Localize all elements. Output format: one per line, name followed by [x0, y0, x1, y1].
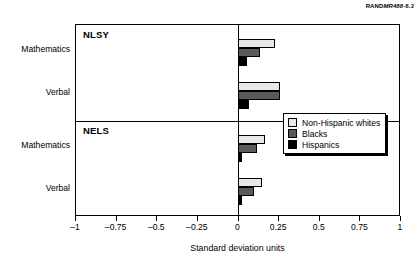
legend-label-non-hispanic-whites: Non-Hispanic whites: [302, 118, 380, 128]
y-label-nlsy-verbal: Verbal: [46, 87, 70, 97]
bar-nlsy-mathematics-blacks: [238, 48, 261, 57]
legend-label-blacks: Blacks: [302, 129, 327, 139]
bar-nels-verbal-hispanics: [238, 196, 243, 205]
x-tick-label-8: 1: [398, 222, 403, 232]
x-tick-label-7: 0.75: [351, 222, 368, 232]
x-tick-label-0: –1: [70, 222, 80, 232]
y-label-nels-verbal: Verbal: [46, 183, 70, 193]
bar-nels-mathematics-blacks: [238, 144, 258, 153]
x-tick-4: [238, 216, 239, 221]
panel-title-nels: NELS: [83, 125, 109, 136]
credit-prefix: RAND: [366, 3, 384, 9]
legend: Non-Hispanic whites Blacks Hispanics: [283, 113, 386, 154]
bar-nlsy-verbal-blacks: [238, 91, 280, 100]
x-tick-2: [156, 216, 157, 221]
legend-swatch-blacks: [288, 129, 297, 138]
bar-nlsy-mathematics-hispanics: [238, 57, 248, 66]
legend-swatch-hispanics: [288, 140, 297, 149]
legend-item-blacks: Blacks: [288, 128, 380, 139]
x-tick-1: [116, 216, 117, 221]
y-label-nlsy-mathematics: Mathematics: [21, 44, 70, 54]
bar-nlsy-verbal-non-hispanic-whites: [238, 82, 280, 91]
bar-nels-verbal-blacks: [238, 187, 254, 196]
bar-nlsy-mathematics-non-hispanic-whites: [238, 39, 275, 48]
x-tick-label-2: –0.5: [148, 222, 165, 232]
x-tick-label-5: 0.25: [270, 222, 287, 232]
x-tick-label-6: 0.5: [313, 222, 325, 232]
x-tick-3: [197, 216, 198, 221]
bar-nels-mathematics-non-hispanic-whites: [238, 135, 266, 144]
x-tick-5: [278, 216, 279, 221]
legend-swatch-non-hispanic-whites: [288, 118, 297, 127]
x-axis-title: Standard deviation units: [75, 243, 400, 253]
x-tick-label-1: –0.75: [105, 222, 127, 232]
bar-nels-verbal-non-hispanic-whites: [238, 178, 262, 187]
x-tick-0: [75, 216, 76, 221]
panel-title-nlsy: NLSY: [83, 29, 109, 40]
legend-label-hispanics: Hispanics: [302, 140, 339, 150]
x-tick-8: [400, 216, 401, 221]
x-tick-7: [359, 216, 360, 221]
legend-item-non-hispanic-whites: Non-Hispanic whites: [288, 117, 380, 128]
x-tick-label-3: –0.25: [186, 222, 208, 232]
credit-report-number: MR488-6.3: [383, 3, 414, 9]
figure: RANDMR488-6.3 Mathematics Verbal Mathema…: [0, 0, 420, 267]
x-tick-6: [319, 216, 320, 221]
rand-credit-line: RANDMR488-6.3: [366, 3, 414, 9]
bar-nels-mathematics-hispanics: [238, 153, 243, 162]
y-axis-labels: Mathematics Verbal Mathematics Verbal: [0, 24, 75, 216]
legend-item-hispanics: Hispanics: [288, 139, 380, 150]
x-axis: –1–0.75–0.5–0.2500.250.50.751: [75, 216, 400, 266]
bar-nlsy-verbal-hispanics: [238, 100, 249, 109]
x-tick-label-4: 0: [235, 222, 240, 232]
y-label-nels-mathematics: Mathematics: [21, 140, 70, 150]
